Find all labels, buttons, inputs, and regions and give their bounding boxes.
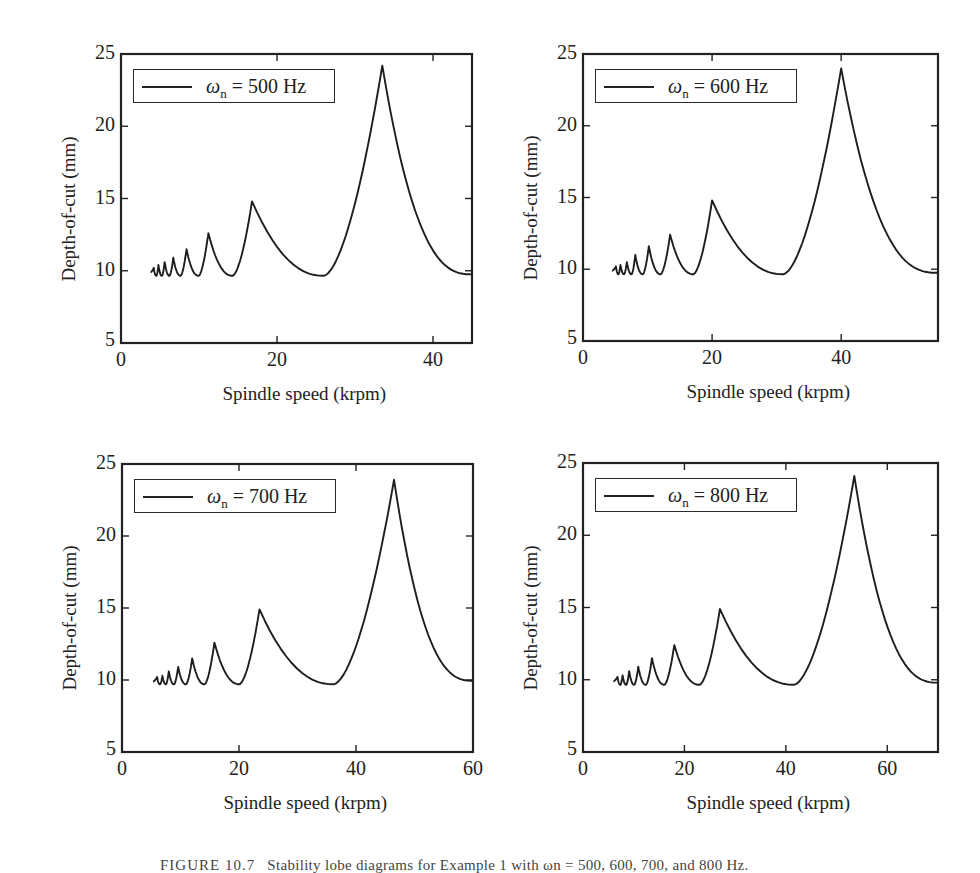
y-tick-label: 5 — [567, 738, 577, 758]
caption-text: Stability lobe diagrams for Example 1 wi… — [267, 857, 748, 873]
x-tick-label: 40 — [776, 758, 796, 778]
x-tick-label: 0 — [578, 347, 588, 367]
y-tick-label: 15 — [96, 596, 116, 616]
x-tick-label: 40 — [346, 758, 366, 778]
chart-panel-500hz: 02040510152025Spindle speed (krpm)Depth-… — [121, 54, 472, 343]
x-axis-label: Spindle speed (krpm) — [687, 381, 851, 403]
y-tick-label: 25 — [96, 452, 116, 472]
x-tick-label: 40 — [423, 349, 443, 369]
y-tick-label: 15 — [557, 596, 577, 616]
legend-box: ωn = 800 Hz — [595, 478, 797, 512]
y-axis-label: Depth-of-cut (mm) — [519, 135, 541, 280]
legend-box: ωn = 500 Hz — [133, 69, 335, 103]
x-axis-label: Spindle speed (krpm) — [224, 792, 388, 814]
y-axis-label: Depth-of-cut (mm) — [519, 545, 541, 690]
legend-line-swatch — [604, 495, 654, 497]
y-tick-label: 5 — [567, 327, 577, 347]
x-tick-label: 20 — [702, 347, 722, 367]
chart-panel-800hz: 0204060510152025Spindle speed (krpm)Dept… — [583, 463, 938, 752]
chart-panel-600hz: 02040510152025Spindle speed (krpm)Depth-… — [583, 54, 938, 341]
y-tick-label: 10 — [557, 257, 577, 277]
y-tick-label: 25 — [557, 451, 577, 471]
legend-line-swatch — [142, 86, 192, 88]
y-tick-label: 10 — [95, 259, 115, 279]
y-tick-label: 5 — [106, 738, 116, 758]
x-tick-label: 40 — [831, 347, 851, 367]
legend-label: ωn = 500 Hz — [206, 75, 306, 102]
x-tick-label: 20 — [674, 758, 694, 778]
y-tick-label: 20 — [95, 114, 115, 134]
y-tick-label: 15 — [95, 187, 115, 207]
legend-line-swatch — [143, 496, 193, 498]
y-tick-label: 10 — [557, 668, 577, 688]
y-tick-label: 20 — [96, 524, 116, 544]
y-tick-label: 25 — [95, 42, 115, 62]
y-axis-label: Depth-of-cut (mm) — [57, 136, 79, 281]
chart-panel-700hz: 0204060510152025Spindle speed (krpm)Dept… — [122, 464, 473, 752]
legend-box: ωn = 600 Hz — [595, 69, 797, 103]
figure-caption: FIGURE 10.7 Stability lobe diagrams for … — [160, 857, 749, 873]
y-tick-label: 20 — [557, 523, 577, 543]
x-axis-label: Spindle speed (krpm) — [223, 383, 387, 405]
x-tick-label: 0 — [117, 758, 127, 778]
y-axis-label: Depth-of-cut (mm) — [58, 545, 80, 690]
x-tick-label: 20 — [229, 758, 249, 778]
caption-label: FIGURE 10.7 — [160, 857, 255, 873]
x-axis-label: Spindle speed (krpm) — [687, 792, 851, 814]
legend-label: ωn = 800 Hz — [668, 484, 768, 511]
legend-line-swatch — [604, 86, 654, 88]
y-tick-label: 15 — [557, 186, 577, 206]
legend-label: ωn = 700 Hz — [207, 485, 307, 512]
x-tick-label: 0 — [116, 349, 126, 369]
x-tick-label: 0 — [578, 758, 588, 778]
y-tick-label: 20 — [557, 114, 577, 134]
x-tick-label: 60 — [877, 758, 897, 778]
y-tick-label: 25 — [557, 42, 577, 62]
legend-label: ωn = 600 Hz — [668, 75, 768, 102]
legend-box: ωn = 700 Hz — [134, 479, 336, 513]
x-tick-label: 60 — [463, 758, 483, 778]
x-tick-label: 20 — [267, 349, 287, 369]
y-tick-label: 5 — [105, 329, 115, 349]
y-tick-label: 10 — [96, 668, 116, 688]
